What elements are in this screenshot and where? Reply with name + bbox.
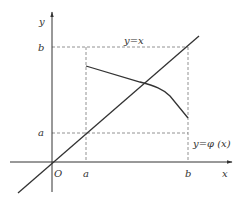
y-tick-a: a	[38, 127, 44, 138]
phi-curve	[86, 66, 188, 118]
y-axis-label: y	[38, 16, 45, 27]
x-axis-label: x	[222, 168, 228, 179]
phi-curve-label: y=φ (x)	[192, 138, 231, 149]
identity-line-label: y=x	[123, 35, 144, 46]
y-tick-b: b	[38, 42, 44, 53]
x-tick-a: a	[83, 168, 89, 179]
origin-label: O	[54, 168, 62, 179]
diagram-canvas: y x O b a a b y=x y=φ (x)	[0, 0, 245, 202]
x-tick-b: b	[185, 168, 191, 179]
identity-line	[18, 36, 199, 193]
